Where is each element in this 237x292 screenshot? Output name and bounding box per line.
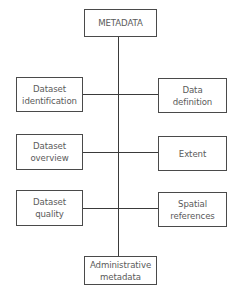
- data-definition-box: Data definition: [158, 78, 227, 113]
- extent-label: Extent: [179, 148, 206, 160]
- dataset-quality-box: Dataset quality: [16, 190, 83, 226]
- administrative-metadata-label-line2: metadata: [100, 271, 141, 283]
- metadata-root-label: METADATA: [98, 17, 143, 29]
- dataset-overview-box: Dataset overview: [16, 134, 83, 170]
- data-definition-label-line2: definition: [173, 96, 212, 108]
- dataset-overview-label-line2: overview: [30, 152, 68, 164]
- metadata-hierarchy-diagram: METADATA Dataset identification Dataset …: [0, 0, 237, 292]
- vertical-spine-connector: [118, 37, 119, 256]
- dataset-identification-box: Dataset identification: [16, 77, 83, 112]
- row2-connector: [83, 152, 158, 153]
- data-definition-label-line1: Data: [182, 84, 202, 96]
- dataset-overview-label-line1: Dataset: [33, 140, 66, 152]
- row1-connector: [83, 94, 158, 95]
- spatial-references-label-line1: Spatial: [178, 198, 207, 210]
- metadata-root-box: METADATA: [84, 9, 157, 37]
- dataset-identification-label-line2: identification: [22, 95, 77, 107]
- administrative-metadata-box: Administrative metadata: [84, 256, 157, 285]
- administrative-metadata-label-line1: Administrative: [90, 259, 151, 271]
- dataset-identification-label-line1: Dataset: [33, 83, 66, 95]
- spatial-references-box: Spatial references: [158, 192, 227, 227]
- row3-connector: [83, 208, 158, 209]
- dataset-quality-label-line1: Dataset: [33, 196, 66, 208]
- dataset-quality-label-line2: quality: [35, 208, 64, 220]
- spatial-references-label-line2: references: [170, 210, 215, 222]
- extent-box: Extent: [158, 136, 227, 171]
